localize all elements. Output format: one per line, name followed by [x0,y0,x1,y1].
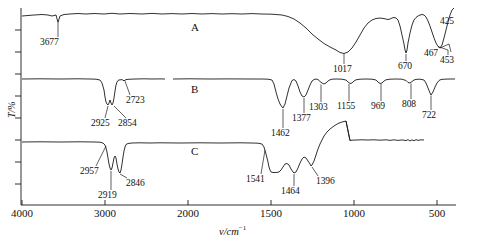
xtick-1500: 1500 [253,207,289,219]
xtick-2000: 2000 [170,207,206,219]
peak-label-b-2925: 2925 [91,118,110,128]
peak-label-a-1017: 1017 [333,64,352,74]
peak-label-a-670: 670 [398,61,412,71]
peak-label-c-2846: 2846 [126,178,145,188]
peak-label-a-3677: 3677 [40,37,59,47]
trace-letter-b: B [191,83,198,95]
peak-label-b-969: 969 [371,101,385,111]
peak-label-a-425: 425 [440,16,454,26]
peak-label-b-1462: 1462 [271,128,290,138]
peak-label-a-453: 453 [440,55,454,65]
peak-label-c-2957: 2957 [80,166,99,176]
peak-label-b-2854: 2854 [118,118,137,128]
peak-label-a-467: 467 [424,48,438,58]
trace-a-leader-lines [58,23,451,64]
trace-letter-c: C [191,145,198,157]
xtick-4000: 4000 [4,207,40,219]
peak-label-b-1377: 1377 [292,113,311,123]
xtick-1000: 1000 [336,207,372,219]
peak-label-c-1396: 1396 [316,176,335,186]
x-axis-ticks [22,200,437,205]
peak-label-b-2723: 2723 [126,95,145,105]
peak-label-b-808: 808 [402,99,416,109]
xtick-3000: 3000 [87,207,123,219]
ftir-spectra-figure: A B C 4000 3000 2000 1500 1000 500 ν/cm−… [0,0,482,246]
peak-label-b-1303: 1303 [309,102,328,112]
peak-label-b-722: 722 [422,110,436,120]
spectrum-trace-c-shoulder [346,121,350,141]
peak-label-c-1541: 1541 [246,174,265,184]
peak-label-b-1155: 1155 [337,101,355,111]
peak-label-c-2919: 2919 [98,190,117,200]
x-axis-title: ν/cm−1 [219,224,246,237]
xtick-500: 500 [423,207,451,219]
trace-letter-a: A [191,21,199,33]
y-axis-title: T/% [6,101,17,118]
peak-label-c-1464: 1464 [281,186,300,196]
spectra-plot-area [0,0,482,246]
spectrum-trace-a [22,8,454,54]
